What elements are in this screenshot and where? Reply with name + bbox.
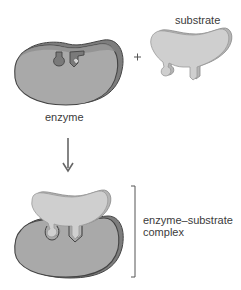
substrate-label: substrate — [175, 14, 220, 26]
down-arrow-icon — [63, 138, 73, 171]
enzyme-shape — [15, 40, 123, 105]
substrate-shape — [151, 28, 232, 80]
plus-sign — [134, 54, 141, 61]
diagram-canvas — [0, 0, 241, 290]
enzyme-label: enzyme — [45, 111, 84, 123]
enzyme-substrate-complex-label: enzyme–substrate complex — [143, 214, 241, 238]
complex-bracket — [131, 186, 135, 277]
